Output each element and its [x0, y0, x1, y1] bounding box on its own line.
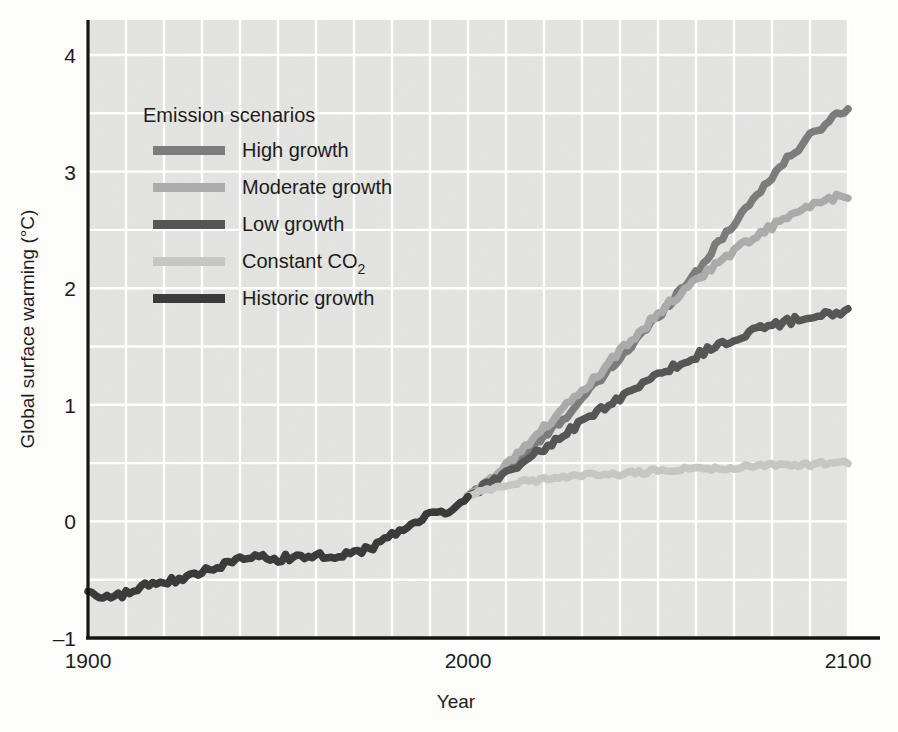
climate-warming-chart: –101234190020002100YearGlobal surface wa… — [0, 0, 898, 732]
legend-swatch — [153, 183, 225, 192]
legend-swatch — [153, 220, 225, 229]
y-tick-label: 4 — [64, 44, 76, 67]
legend-label: Historic growth — [242, 287, 374, 309]
legend-swatch — [153, 294, 225, 303]
x-tick-label: 1900 — [65, 649, 112, 672]
legend-swatch — [153, 146, 225, 155]
x-axis-title: Year — [437, 691, 476, 712]
x-tick-label: 2000 — [445, 649, 492, 672]
y-tick-label: 0 — [64, 510, 76, 533]
y-tick-label: 1 — [64, 394, 76, 417]
legend-swatch — [153, 257, 225, 266]
legend-label: High growth — [242, 139, 349, 161]
y-tick-label: –1 — [53, 627, 76, 650]
chart-canvas: –101234190020002100YearGlobal surface wa… — [0, 0, 898, 732]
y-tick-label: 2 — [64, 277, 76, 300]
y-tick-label: 3 — [64, 161, 76, 184]
legend-label: Moderate growth — [242, 176, 392, 198]
legend-label: Low growth — [242, 213, 344, 235]
x-tick-label: 2100 — [825, 649, 872, 672]
legend-title: Emission scenarios — [143, 104, 315, 126]
y-axis-title: Global surface warming (°C) — [17, 210, 38, 449]
